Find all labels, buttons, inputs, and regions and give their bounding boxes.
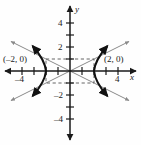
y-axis-name: y (75, 5, 79, 14)
x-axis-name: x (130, 73, 134, 82)
x-tick-label-4: 4 (115, 75, 120, 84)
x-tick-label-neg4: –4 (15, 75, 24, 84)
right-branch-lower (94, 71, 107, 96)
left-branch-upper (33, 47, 46, 72)
graph-canvas (0, 0, 141, 145)
left-vertex-label: (–2, 0) (3, 55, 27, 64)
y-tick-label-neg2: –2 (54, 91, 63, 100)
right-vertex-label: (2, 0) (104, 55, 124, 64)
y-tick-label-neg4: –4 (54, 115, 63, 124)
left-branch-lower (33, 71, 46, 96)
hyperbola-figure: 4 2 –2 –4 –4 4 y x (–2, 0) (2, 0) (0, 0, 141, 145)
y-tick-label-2: 2 (58, 43, 63, 52)
y-tick-label-4: 4 (58, 19, 63, 28)
